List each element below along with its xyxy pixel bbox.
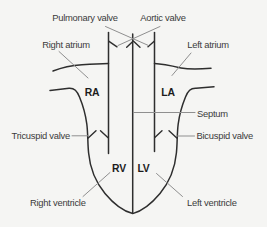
- abbrev-left-ventricle: LV: [137, 163, 149, 174]
- label-pulmonary-valve: Pulmonary valve: [52, 12, 118, 23]
- label-septum: Septum: [197, 108, 228, 119]
- abbrev-left-atrium: LA: [161, 87, 175, 98]
- label-aortic-valve: Aortic valve: [140, 12, 185, 23]
- abbrev-right-ventricle: RV: [112, 163, 126, 174]
- abbrev-right-atrium: RA: [85, 87, 100, 98]
- label-left-ventricle: Left ventricle: [187, 197, 237, 208]
- label-tricuspid-valve: Tricuspid valve: [12, 130, 70, 141]
- label-bicuspid-valve: Bicuspid valve: [197, 130, 253, 141]
- label-right-ventricle: Right ventricle: [30, 197, 86, 208]
- diagram-canvas: Pulmonary valve Aortic valve Right atriu…: [0, 0, 267, 227]
- heart-schematic-diagram: Pulmonary valve Aortic valve Right atriu…: [0, 0, 267, 227]
- label-right-atrium: Right atrium: [42, 39, 90, 50]
- label-left-atrium: Left atrium: [187, 39, 229, 50]
